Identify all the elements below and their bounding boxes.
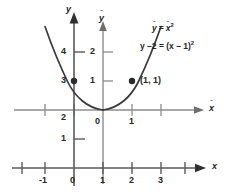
outer-y-ticklabel-4: 4 xyxy=(61,47,66,56)
x-hat-mark: ˆ xyxy=(210,99,213,107)
outer-y-ticklabel-3: 3 xyxy=(61,76,66,85)
point-label-1-1: (1, 1) xyxy=(140,76,161,85)
point-marker-right xyxy=(129,78,135,84)
parabola-curve xyxy=(52,0,103,110)
equation-hat-form: ˆy=ˆx2 xyxy=(152,24,174,33)
outer-x-ticklabel-3: 3 xyxy=(158,176,163,185)
inner-y-axis-label: ˆy xyxy=(99,14,104,23)
inner-origin-label: 0 xyxy=(95,117,100,126)
outer-x-axis-label: x xyxy=(212,162,217,171)
outer-y-ticklabel-2: 2 xyxy=(61,113,66,122)
equation-plain-form: y –2 = (x – 1)2 xyxy=(140,42,194,51)
outer-y-axis xyxy=(70,12,79,186)
eq1-equals: = xyxy=(157,23,166,33)
eq1-exponent: 2 xyxy=(170,22,173,28)
outer-y-ticklabel-1: 1 xyxy=(61,134,66,143)
eq1-y-hat-mark: ˆ xyxy=(153,20,155,27)
inner-x-ticklabel-1: 1 xyxy=(129,117,134,126)
inner-x-axis-arrowhead xyxy=(194,106,204,114)
eq2-exponent: 2 xyxy=(191,40,194,46)
parabola-translated-axes-figure: y x ˆy ˆx 4 3 2 1 -1 0 1 2 3 2 1 0 1 (1,… xyxy=(0,0,231,192)
y-hat-mark: ˆ xyxy=(100,9,103,17)
eq2-body: y –2 = (x – 1) xyxy=(140,41,191,51)
inner-x-axis-label: ˆx xyxy=(209,104,214,113)
inner-y-ticklabel-2: 2 xyxy=(90,47,95,56)
outer-x-ticklabel-0: 0 xyxy=(70,176,75,185)
outer-y-axis-label: y xyxy=(66,5,71,14)
inner-y-axis-ticks xyxy=(103,52,113,81)
point-marker-left xyxy=(71,78,77,84)
parabola-curve-right xyxy=(103,27,161,111)
outer-x-ticklabel-1: 1 xyxy=(100,176,105,185)
outer-x-ticklabel-2: 2 xyxy=(129,176,134,185)
figure-canvas xyxy=(0,0,231,192)
eq1-x-hat-mark: ˆ xyxy=(167,20,169,27)
inner-y-ticklabel-1: 1 xyxy=(90,76,95,85)
outer-x-ticklabel-neg1: -1 xyxy=(39,176,47,185)
outer-x-axis xyxy=(12,164,206,172)
outer-x-axis-arrowhead xyxy=(195,164,206,172)
inner-x-axis xyxy=(14,106,204,114)
inner-y-axis xyxy=(99,21,107,184)
